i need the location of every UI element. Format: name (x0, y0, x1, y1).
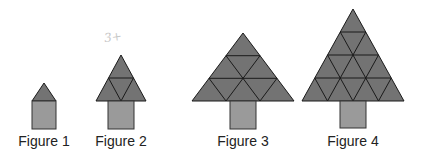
figure-4-trunk (340, 101, 366, 128)
figure-3-trunk (230, 101, 256, 129)
figure-3-label: Figure 3 (203, 133, 283, 149)
handwritten-annotation: 3+ (103, 29, 122, 45)
figure-4-label: Figure 4 (313, 133, 393, 149)
figure-2-tree (96, 55, 146, 129)
figure-1-label: Figure 1 (4, 133, 84, 149)
figure-1-tree (32, 83, 56, 129)
figure-2-trunk (108, 101, 134, 129)
figure-1-triangle (32, 83, 56, 101)
figure-4-tree (302, 9, 404, 128)
figure-1-trunk (32, 101, 56, 129)
figure-2-label: Figure 2 (81, 133, 161, 149)
figure-3-tree (192, 33, 294, 129)
